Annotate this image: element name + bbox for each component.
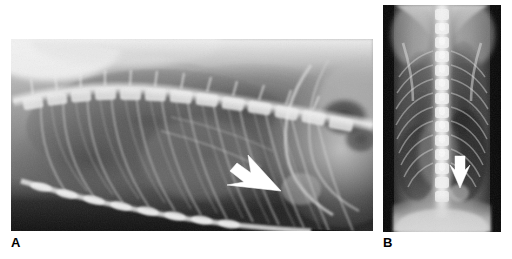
radiograph-panel-a: [11, 39, 373, 231]
figure-root: A B: [0, 0, 512, 259]
panel-label-b: B: [383, 236, 392, 249]
ventrodorsal-thoracic-radiograph-image: [383, 5, 501, 232]
panel-label-a: A: [11, 236, 20, 249]
lateral-thoracic-radiograph-image: [11, 39, 373, 231]
radiograph-panel-b: [383, 5, 501, 232]
